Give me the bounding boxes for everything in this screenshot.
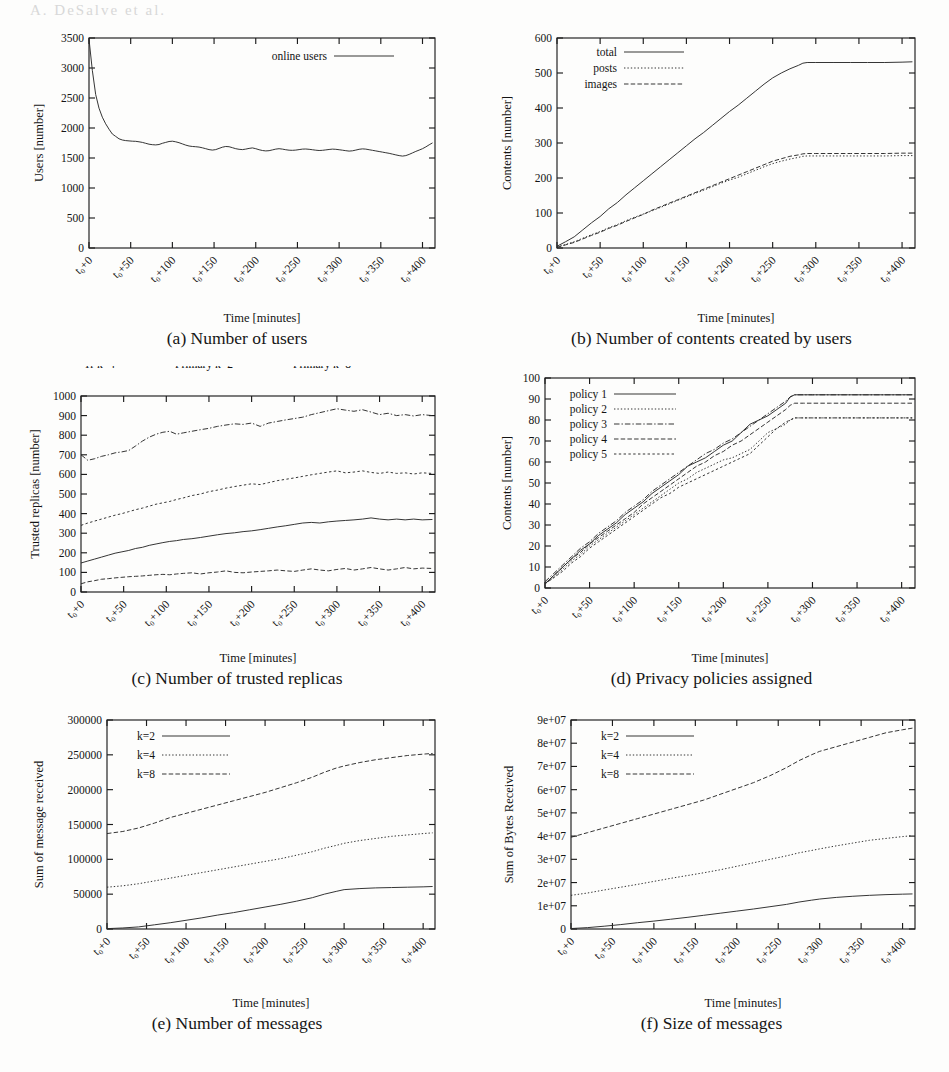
y-tick-label: 300 [534, 137, 552, 149]
legend-label: policy 4 [569, 433, 607, 446]
y-tick-label: 1e+07 [537, 900, 566, 912]
subfigure-b: 0100200300400500600t₀+0t₀+50t₀+100t₀+150… [474, 26, 949, 366]
x-tick-label: t₀+300 [794, 935, 825, 966]
y-tick-label: 40 [528, 498, 540, 510]
x-tick-label: t₀+400 [398, 254, 429, 285]
x-axis-title: Time [minutes] [233, 996, 310, 1010]
series-line [107, 833, 433, 887]
caption-f: (f) Size of messages [474, 1013, 949, 1034]
y-tick-label: 2500 [61, 92, 84, 104]
y-axis-title: Users [number] [32, 104, 46, 182]
x-tick-label: t₀+150 [670, 935, 701, 966]
x-tick-label: t₀+150 [653, 594, 684, 625]
series-line [107, 753, 433, 833]
x-tick-label: t₀+50 [126, 935, 152, 961]
x-tick-label: t₀+400 [398, 935, 429, 966]
x-axis-title: Time [minutes] [224, 311, 301, 325]
x-tick-label: t₀+50 [591, 935, 617, 961]
y-tick-label: 0 [70, 586, 76, 598]
y-tick-label: 1500 [61, 152, 84, 164]
y-tick-label: 250000 [68, 749, 103, 761]
x-tick-label: t₀+50 [110, 254, 136, 280]
x-tick-label: t₀+100 [141, 598, 172, 629]
y-tick-label: 6e+07 [537, 784, 566, 796]
legend-label: Primary k=2 [175, 366, 233, 371]
x-tick-label: t₀+200 [240, 935, 271, 966]
y-tick-label: 50 [528, 477, 540, 489]
caption-e: (e) Number of messages [0, 1013, 474, 1034]
y-tick-label: 200 [534, 172, 552, 184]
x-tick-label: t₀+0 [540, 254, 562, 276]
series-line [81, 471, 432, 525]
y-tick-label: 60 [528, 456, 540, 468]
y-tick-label: 2000 [61, 122, 84, 134]
y-tick-label: 400 [59, 508, 77, 520]
series-line [81, 409, 432, 461]
chart-d: 0102030405060708090100t₀+0t₀+50t₀+100t₀+… [497, 366, 927, 666]
y-tick-label: 100000 [68, 853, 103, 865]
x-tick-label: t₀+200 [231, 254, 262, 285]
x-tick-label: t₀+150 [189, 254, 220, 285]
legend-label: policy 1 [569, 388, 607, 401]
legend-label: k=2 [137, 730, 155, 742]
subfigure-f: 01e+072e+073e+074e+075e+076e+077e+078e+0… [474, 706, 949, 1072]
y-axis-title: Contents [number] [500, 96, 514, 190]
x-tick-label: t₀+350 [832, 594, 863, 625]
x-tick-label: t₀+50 [568, 594, 594, 620]
y-tick-label: 600 [534, 32, 552, 44]
y-tick-label: 2e+07 [537, 877, 566, 889]
plot-b-wrap: 0100200300400500600t₀+0t₀+50t₀+100t₀+150… [474, 26, 949, 326]
x-tick-label: t₀+150 [201, 935, 232, 966]
x-tick-label: t₀+350 [833, 254, 864, 285]
y-tick-label: 30 [528, 519, 540, 531]
x-axis-title: Time [minutes] [220, 651, 297, 665]
legend-label: online users [272, 50, 328, 62]
y-tick-label: 700 [59, 449, 77, 461]
y-tick-label: 0 [546, 242, 552, 254]
series-line [107, 887, 433, 929]
x-tick-label: t₀+150 [661, 254, 692, 285]
x-tick-label: t₀+300 [787, 594, 818, 625]
series-line [557, 156, 912, 247]
x-tick-label: t₀+350 [359, 935, 390, 966]
legend-label: k=8 [137, 768, 155, 780]
y-tick-label: 300000 [68, 714, 103, 726]
x-tick-label: t₀+0 [90, 935, 112, 957]
x-tick-label: t₀+0 [72, 254, 94, 276]
y-tick-label: 20 [528, 540, 540, 552]
y-axis-title: Contents [number] [500, 436, 514, 530]
y-axis-title: Sum of Bytes Received [502, 765, 516, 883]
legend-label: policy 2 [569, 403, 607, 416]
plot-c-wrap: 01002003004005006007008009001000t₀+0t₀+5… [0, 366, 474, 666]
y-tick-label: 300 [59, 527, 77, 539]
y-tick-label: 200000 [68, 784, 103, 796]
x-tick-label: t₀+250 [269, 598, 300, 629]
x-tick-label: t₀+300 [319, 935, 350, 966]
x-tick-label: t₀+50 [103, 598, 129, 624]
chart-b: 0100200300400500600t₀+0t₀+50t₀+100t₀+150… [497, 26, 927, 326]
y-tick-label: 0 [534, 582, 540, 594]
y-tick-label: 500 [67, 212, 85, 224]
x-tick-label: t₀+250 [753, 935, 784, 966]
x-axis-title: Time [minutes] [697, 311, 774, 325]
y-tick-label: 100 [522, 372, 540, 384]
legend-label: k=4 [137, 749, 155, 761]
y-tick-label: 5e+07 [537, 807, 566, 819]
x-axis-title: Time [minutes] [691, 651, 768, 665]
y-tick-label: 800 [59, 429, 77, 441]
x-tick-label: t₀+350 [356, 254, 387, 285]
series-line [571, 836, 913, 896]
x-tick-label: t₀+400 [397, 598, 428, 629]
x-tick-label: t₀+50 [579, 254, 605, 280]
x-tick-label: t₀+250 [747, 254, 778, 285]
y-tick-label: 70 [528, 435, 540, 447]
x-tick-label: t₀+200 [698, 594, 729, 625]
legend-label: Tr k=4 [84, 366, 116, 370]
x-tick-label: t₀+200 [711, 935, 742, 966]
y-tick-label: 3500 [61, 32, 84, 44]
y-tick-label: 4e+07 [537, 830, 566, 842]
plot-f-wrap: 01e+072e+073e+074e+075e+076e+077e+078e+0… [474, 706, 949, 1011]
x-tick-label: t₀+300 [312, 598, 343, 629]
x-tick-label: t₀+350 [355, 598, 386, 629]
series-line [81, 518, 432, 563]
